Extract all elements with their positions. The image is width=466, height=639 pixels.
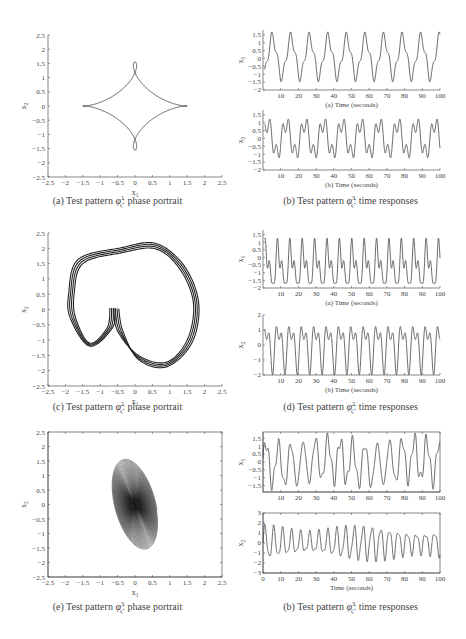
x-tick-label: 50 [348, 172, 356, 180]
axis-label: x2 [19, 501, 29, 508]
svg-text:x2: x2 [236, 136, 246, 143]
x-tick-label: 0.5 [148, 388, 157, 396]
x-tick-label: 10 [277, 172, 285, 180]
time-series-line [265, 327, 440, 375]
x-tick-label: −0.5 [111, 388, 124, 396]
x-tick-label: 0 [133, 179, 137, 187]
axis-label: x1 [236, 56, 246, 63]
y-tick-label: 0.5 [36, 487, 45, 495]
caption-b2: (b) Test pattern φ3ς: time responses [235, 601, 466, 614]
caption-text: : time responses [353, 195, 417, 206]
x-tick-label: 100 [435, 377, 446, 385]
x-tick-label: −1 [96, 388, 104, 396]
trajectory-line [112, 459, 157, 549]
y-tick-label: 1.5 [252, 435, 261, 443]
x-tick-label: 90 [419, 172, 427, 180]
y-tick-label: 1 [258, 119, 262, 127]
y-tick-label: −1.5 [32, 352, 45, 360]
x-tick-label: 1 [168, 388, 172, 396]
y-tick-label: −1.5 [32, 545, 45, 553]
figure-b-time-responses: 1020304050607080901001.510.50−0.5−1−1.5−… [235, 0, 466, 215]
y-tick-label: −2 [254, 371, 262, 379]
y-tick-label: −0.5 [32, 117, 45, 125]
phase-portrait-plot: −2.5−2−1.5−1−0.500.511.522.52.521.510.50… [0, 0, 235, 215]
x-tick-label: 2 [203, 388, 207, 396]
x-tick-label: 2 [203, 579, 207, 587]
y-tick-label: −1.5 [32, 145, 45, 153]
time-axis-label: (a) Time (seconds) [325, 299, 378, 307]
x-tick-label: −0.5 [111, 579, 124, 587]
time-series-line [265, 32, 440, 82]
time-response-plots: 1020304050607080901001.510.50−0.5−1−1.5−… [235, 215, 466, 420]
x-tick-label: −2 [62, 179, 70, 187]
y-tick-label: −2 [38, 559, 46, 567]
axis-label: x2 [236, 341, 246, 348]
x-tick-label: 50 [348, 575, 356, 583]
x-tick-label: 100 [435, 92, 446, 100]
y-tick-label: 2.5 [36, 429, 45, 437]
x-tick-label: 60 [366, 377, 374, 385]
y-tick-label: −2.5 [32, 383, 45, 391]
x-tick-label: 30 [313, 377, 321, 385]
y-tick-label: 0 [258, 55, 262, 63]
x-tick-label: 70 [383, 494, 391, 502]
caption-text: : phase portrait [122, 195, 182, 206]
figure-c-phase-portrait: −2.5−2−1.5−1−0.500.511.522.52.521.510.50… [0, 215, 235, 420]
caption-text: (d) Test pattern [283, 401, 346, 412]
x-tick-label: 20 [295, 92, 303, 100]
axes: 102030405060708090100210−1−2(b) Time (se… [254, 311, 446, 394]
axis-label: x2 [236, 539, 246, 546]
x-tick-label: 100 [435, 494, 446, 502]
y-tick-label: 2 [42, 443, 46, 451]
x-tick-label: 0 [133, 579, 137, 587]
y-tick-label: 1 [258, 39, 262, 47]
x-tick-label: 40 [330, 377, 338, 385]
time-response-plots: 1020304050607080901001.510.50−0.5−1−1.5−… [235, 0, 466, 215]
x-tick-label: 20 [295, 377, 303, 385]
y-tick-label: 0.5 [36, 88, 45, 96]
x-tick-label: −1.5 [76, 179, 89, 187]
svg-text:x1: x1 [236, 255, 246, 262]
x-tick-label: 20 [295, 172, 303, 180]
y-tick-label: −1.5 [248, 78, 261, 86]
x-tick-label: 30 [313, 172, 321, 180]
svg-text:x1: x1 [236, 458, 246, 465]
x-tick-label: 30 [313, 575, 321, 583]
y-tick-label: 1 [42, 74, 46, 82]
x-tick-label: 2 [203, 179, 207, 187]
x-tick-label: 90 [419, 377, 427, 385]
y-tick-label: 2 [42, 245, 46, 253]
y-tick-label: 1 [258, 529, 262, 537]
y-tick-label: 0.5 [252, 127, 261, 135]
axis-label: x2 [19, 102, 29, 109]
x-tick-label: 100 [435, 172, 446, 180]
trajectory-line [83, 62, 187, 150]
y-tick-label: −2 [38, 159, 46, 167]
x-tick-label: 50 [348, 494, 356, 502]
x-tick-label: 80 [401, 575, 409, 583]
x-tick-label: 20 [295, 290, 303, 298]
caption-text: (e) Test pattern [53, 601, 116, 612]
y-tick-label: −0.5 [248, 143, 261, 151]
x-tick-label: 1 [168, 579, 172, 587]
y-tick-label: −2.5 [32, 174, 45, 182]
caption-text: (a) Test pattern [53, 195, 116, 206]
y-tick-label: −2 [38, 367, 46, 375]
x-tick-label: 70 [383, 172, 391, 180]
caption-text: : time responses [353, 601, 417, 612]
y-tick-label: 0 [258, 341, 262, 349]
y-tick-label: −1 [254, 71, 262, 79]
x-tick-label: 0.5 [148, 179, 157, 187]
y-tick-label: −1 [38, 530, 46, 538]
x-tick-label: 40 [330, 494, 338, 502]
svg-text:x2: x2 [19, 501, 29, 508]
x-tick-label: −2 [62, 579, 70, 587]
x-tick-label: 90 [419, 92, 427, 100]
y-tick-label: 0 [258, 539, 262, 547]
y-tick-label: 0.5 [36, 291, 45, 299]
axis-label: x1 [236, 255, 246, 262]
x-tick-label: 40 [330, 172, 338, 180]
caption-b: (b) Test pattern φ3ς: time responses [235, 195, 466, 208]
y-tick-label: 0 [258, 458, 262, 466]
time-axis-label: (a) Time (seconds) [325, 101, 378, 109]
